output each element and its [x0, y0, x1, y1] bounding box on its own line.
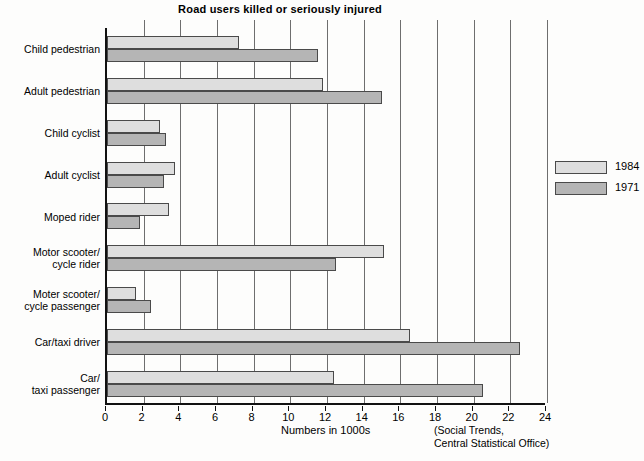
tick-label-12: 12 — [312, 411, 338, 423]
tick-label-24: 24 — [532, 411, 558, 423]
category-label-line: Child cyclist — [0, 127, 100, 139]
bar-1984 — [107, 162, 175, 175]
bar-1971 — [107, 216, 140, 229]
legend: 1984 1971 — [555, 159, 644, 201]
bar-1984 — [107, 287, 136, 300]
bar-rows — [107, 28, 545, 403]
category-axis-labels: Child pedestrianAdult pedestrianChild cy… — [0, 28, 100, 405]
bar-1984 — [107, 245, 384, 258]
bar-1984 — [107, 203, 169, 216]
gridline-24 — [547, 20, 548, 403]
bar-group — [107, 154, 545, 196]
category-label-line: Adult cyclist — [0, 169, 100, 181]
plot-area: 1984 1971 — [105, 28, 545, 405]
bar-1971 — [107, 258, 336, 271]
bar-1971 — [107, 300, 151, 313]
tick-label-6: 6 — [202, 411, 228, 423]
bar-group — [107, 70, 545, 112]
tick-label-18: 18 — [422, 411, 448, 423]
bar-1971 — [107, 384, 483, 397]
tick-label-16: 16 — [385, 411, 411, 423]
bar-group — [107, 279, 545, 321]
bar-1971 — [107, 49, 318, 62]
tick-label-0: 0 — [92, 411, 118, 423]
category-label: Moped rider — [0, 211, 100, 223]
bar-group — [107, 237, 545, 279]
tick-label-10: 10 — [275, 411, 301, 423]
category-label-line: Motor scooter/ — [0, 246, 100, 258]
category-label-line: Adult pedestrian — [0, 85, 100, 97]
tick-label-2: 2 — [129, 411, 155, 423]
category-label: Child cyclist — [0, 127, 100, 139]
category-label: Car/taxi driver — [0, 336, 100, 348]
tick-label-4: 4 — [165, 411, 191, 423]
bar-1971 — [107, 133, 166, 146]
bar-1984 — [107, 329, 410, 342]
category-label-line: cycle passenger — [0, 300, 100, 312]
tick-label-20: 20 — [459, 411, 485, 423]
category-label-line: cycle rider — [0, 258, 100, 270]
source-note: (Social Trends, Central Statistical Offi… — [434, 424, 549, 450]
source-line-2: Central Statistical Office) — [434, 437, 549, 450]
x-axis-ticks: 024681012141618202224 — [0, 406, 560, 426]
bar-1984 — [107, 120, 160, 133]
legend-item-1984: 1984 — [555, 159, 644, 176]
legend-swatch-1971 — [555, 182, 607, 195]
bar-group — [107, 363, 545, 405]
legend-label-1971: 1971 — [615, 181, 639, 193]
tick-label-22: 22 — [495, 411, 521, 423]
category-label-line: Child pedestrian — [0, 43, 100, 55]
category-label: Adult pedestrian — [0, 85, 100, 97]
category-label: Child pedestrian — [0, 43, 100, 55]
category-label-line: Moped rider — [0, 211, 100, 223]
category-label-line: taxi passenger — [0, 384, 100, 396]
category-label: Car/taxi passenger — [0, 372, 100, 396]
bar-group — [107, 28, 545, 70]
bar-1984 — [107, 371, 334, 384]
bar-group — [107, 321, 545, 363]
tick-label-8: 8 — [239, 411, 265, 423]
category-label-line: Moter scooter/ — [0, 288, 100, 300]
category-label: Motor scooter/cycle rider — [0, 246, 100, 270]
legend-item-1971: 1971 — [555, 180, 644, 197]
source-line-1: (Social Trends, — [434, 424, 549, 437]
bar-1971 — [107, 175, 164, 188]
bar-group — [107, 196, 545, 238]
category-label-line: Car/ — [0, 372, 100, 384]
category-label: Moter scooter/cycle passenger — [0, 288, 100, 312]
legend-label-1984: 1984 — [615, 160, 639, 172]
chart-title: Road users killed or seriously injured — [0, 3, 560, 15]
tick-label-14: 14 — [349, 411, 375, 423]
category-label-line: Car/taxi driver — [0, 336, 100, 348]
legend-swatch-1984 — [555, 161, 607, 174]
category-label: Adult cyclist — [0, 169, 100, 181]
bar-1971 — [107, 91, 382, 104]
x-axis-title: Numbers in 1000s — [281, 424, 370, 436]
bar-1971 — [107, 342, 520, 355]
bar-1984 — [107, 36, 239, 49]
bar-group — [107, 112, 545, 154]
bar-1984 — [107, 78, 323, 91]
